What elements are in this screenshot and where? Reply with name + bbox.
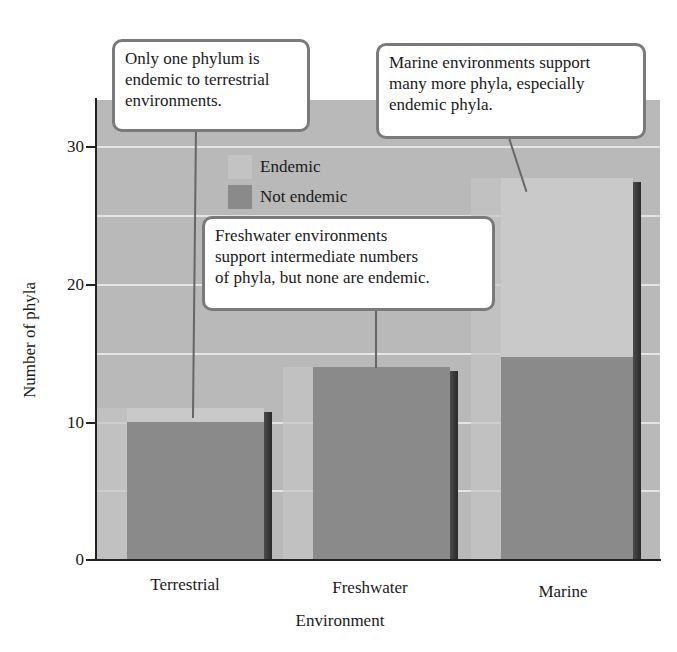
- y-axis-title: Number of phyla: [20, 270, 40, 410]
- x-category-label: Marine: [493, 582, 633, 602]
- y-tick-label: 30: [44, 138, 84, 156]
- bar-segment-not-endemic: [127, 422, 264, 560]
- bar-marine: [501, 178, 633, 560]
- bar-segment-not-endemic: [501, 357, 633, 560]
- y-tick-label: 0: [44, 551, 84, 569]
- legend-item-not-endemic: Not endemic: [228, 182, 347, 212]
- callout-line: of phyla, but none are endemic.: [215, 267, 482, 288]
- callout-line: support intermediate numbers: [215, 246, 482, 267]
- bar-terrestrial: [127, 408, 264, 560]
- x-category-label: Freshwater: [300, 578, 440, 598]
- bar-segment-not-endemic: [313, 367, 450, 560]
- bar-side-shading: [633, 182, 641, 560]
- y-tick-20: [86, 284, 96, 286]
- callout-line: endemic phyla.: [389, 94, 633, 115]
- callout-terrestrial: Only one phylum is endemic to terrestria…: [112, 39, 310, 132]
- x-axis: [95, 559, 661, 561]
- callout-line: endemic to terrestrial: [125, 69, 297, 90]
- legend-label: Endemic: [260, 157, 320, 177]
- legend-swatch-not-endemic: [228, 185, 252, 209]
- bar-side-shading: [264, 412, 272, 560]
- leader-line-freshwater: [375, 308, 377, 368]
- legend-label: Not endemic: [260, 187, 347, 207]
- callout-line: environments.: [125, 90, 297, 111]
- legend: Endemic Not endemic: [228, 152, 347, 212]
- callout-marine: Marine environments support many more ph…: [376, 43, 646, 139]
- y-tick-label: 20: [44, 276, 84, 294]
- bar-shadow: [97, 408, 127, 560]
- bar-freshwater: [313, 367, 450, 560]
- y-tick-30: [86, 146, 96, 148]
- bar-segment-endemic: [501, 178, 633, 357]
- x-axis-title: Environment: [280, 611, 400, 631]
- y-tick-label: 10: [44, 414, 84, 432]
- legend-swatch-endemic: [228, 155, 252, 179]
- callout-freshwater: Freshwater environments support intermed…: [202, 216, 495, 311]
- callout-line: Marine environments support: [389, 52, 633, 73]
- x-category-label: Terrestrial: [115, 575, 255, 595]
- legend-item-endemic: Endemic: [228, 152, 347, 182]
- gridline-30: [97, 146, 660, 148]
- y-tick-0: [86, 559, 96, 561]
- callout-line: Only one phylum is: [125, 48, 297, 69]
- y-tick-10: [86, 422, 96, 424]
- bar-side-shading: [450, 371, 458, 560]
- callout-line: Freshwater environments: [215, 225, 482, 246]
- bar-shadow: [283, 367, 313, 560]
- bar-segment-endemic: [127, 408, 264, 422]
- callout-line: many more phyla, especially: [389, 73, 633, 94]
- y-axis: [95, 98, 97, 561]
